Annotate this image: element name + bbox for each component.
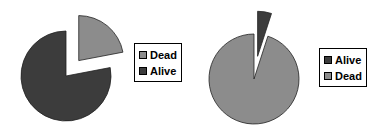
legend-swatch [324,56,332,64]
legend-swatch [324,72,332,80]
legend-label: Alive [150,65,176,77]
pie-chart-left: Dead Alive [0,0,190,133]
legend-entry: Dead [324,68,362,84]
legend-swatch [139,67,147,75]
legend-right: Alive Dead [319,48,367,87]
legend-swatch [139,51,147,59]
legend-entry: Dead [139,47,177,63]
legend-entry: Alive [324,52,362,68]
legend-label: Dead [150,49,177,61]
pie-slice-dead [209,34,299,124]
pie-slice-dead [79,16,123,61]
legend-left: Dead Alive [134,43,182,82]
pie-chart-right: Alive Dead [190,0,381,133]
legend-label: Alive [335,54,361,66]
legend-label: Dead [335,70,362,82]
legend-entry: Alive [139,63,177,79]
